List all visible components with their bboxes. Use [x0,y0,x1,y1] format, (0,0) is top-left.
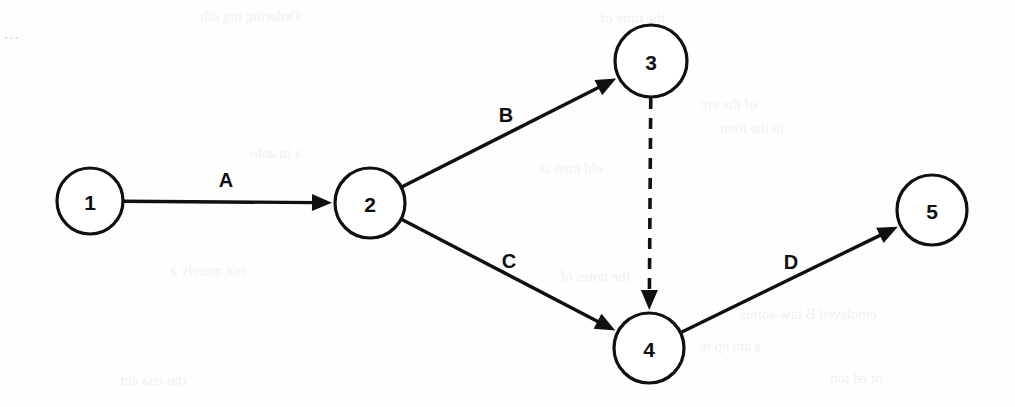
edge-dummy [641,98,658,310]
diagram-canvas: Ordering mg oibthe time ofof the erein t… [0,0,1015,407]
arrow-head-dummy [641,290,658,310]
node-label-2: 2 [364,193,376,216]
edge-label-B: B [499,104,513,126]
node-3[interactable]: 3 [615,25,687,97]
nodes-layer: 12345 [57,25,967,383]
edge-label-C: C [502,250,516,272]
edge-B [402,79,616,187]
node-4[interactable]: 4 [614,313,684,383]
edge-D [681,227,897,333]
edge-line-dummy [649,98,650,293]
node-2[interactable]: 2 [335,168,405,238]
node-5[interactable]: 5 [897,175,967,245]
node-label-5: 5 [926,200,938,223]
edge-labels-layer: ABCD [219,104,798,273]
node-label-4: 4 [643,338,655,361]
edge-line-A [124,201,315,202]
network-diagram: 12345 ABCD [0,0,1015,407]
arrow-head-A [312,194,332,211]
edge-line-B [402,86,601,187]
edge-A [124,194,332,211]
edge-line-D [681,234,882,332]
edge-C [402,220,615,331]
node-1[interactable]: 1 [57,168,123,234]
node-label-1: 1 [84,191,96,214]
edge-label-D: D [784,251,798,273]
node-label-3: 3 [645,51,657,74]
edge-label-A: A [219,169,233,191]
